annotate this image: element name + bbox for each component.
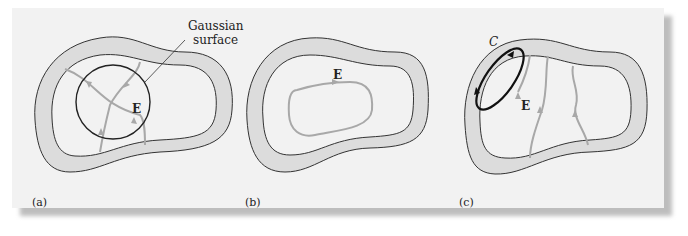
panel-label-a: (a) bbox=[32, 196, 47, 209]
figure-canvas: Gaussian surface E (a) E (b) C E (c) bbox=[0, 0, 688, 236]
field-label-a: E bbox=[132, 102, 141, 116]
panel-label-b: (b) bbox=[245, 196, 261, 209]
panel-c: C E (c) bbox=[459, 35, 647, 209]
loop-label-c: C bbox=[489, 35, 498, 49]
panel-b: E (b) bbox=[245, 38, 428, 209]
field-label-c: E bbox=[521, 99, 530, 113]
panel-label-c: (c) bbox=[459, 196, 474, 209]
field-label-b: E bbox=[333, 68, 342, 82]
panel-a: Gaussian surface E (a) bbox=[32, 19, 244, 209]
callout-label-line1: Gaussian bbox=[188, 19, 244, 33]
callout-label-line2: surface bbox=[193, 33, 238, 47]
